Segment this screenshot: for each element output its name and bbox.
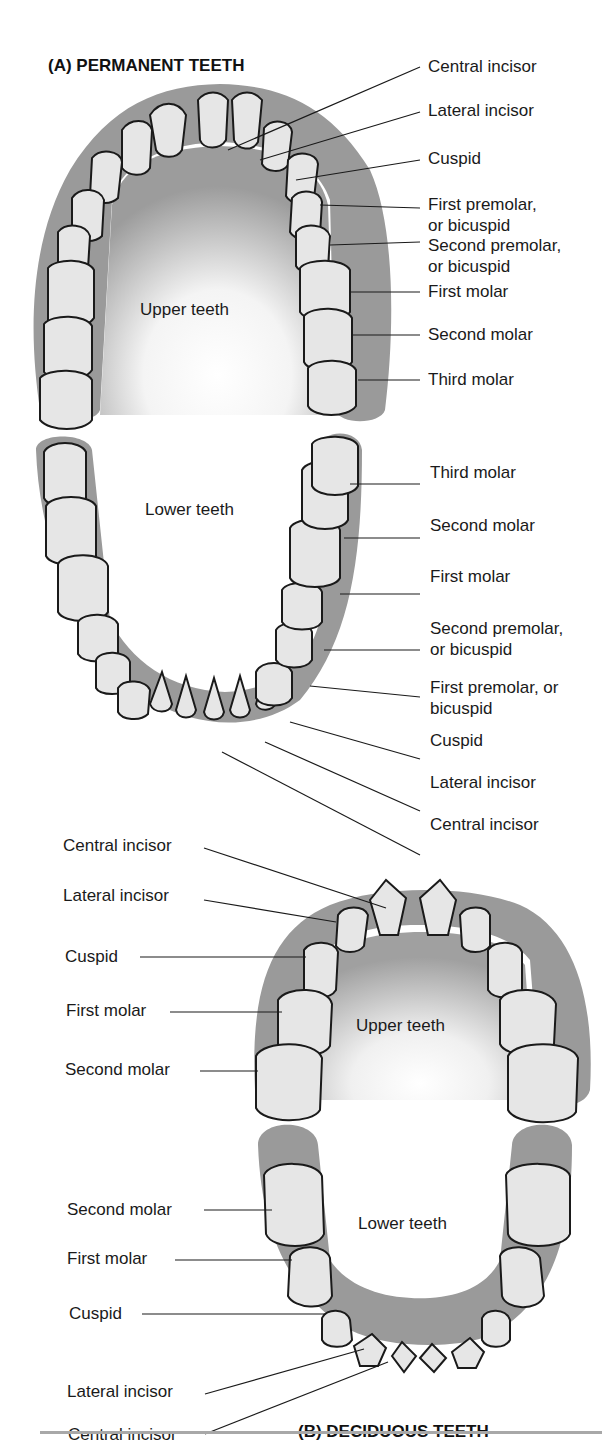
label-perm-lower-first-premolar: First premolar, or bicuspid	[430, 677, 558, 719]
label-line-1: Second premolar,	[430, 618, 563, 639]
label-line-1: Second premolar,	[428, 235, 561, 256]
label-dec-lower-cuspid: Cuspid	[69, 1303, 122, 1324]
label-line-2: bicuspid	[430, 698, 558, 719]
label-perm-upper-lateral-incisor: Lateral incisor	[428, 100, 534, 121]
bottom-divider	[40, 1431, 602, 1434]
label-perm-upper-second-premolar: Second premolar, or bicuspid	[428, 235, 561, 277]
label-perm-lower-central-incisor: Central incisor	[430, 814, 539, 835]
label-dec-lower-second-molar: Second molar	[67, 1199, 172, 1220]
label-dec-lower-lateral-incisor: Lateral incisor	[67, 1381, 173, 1402]
label-dec-upper-second-molar: Second molar	[65, 1059, 170, 1080]
label-perm-lower-cuspid: Cuspid	[430, 730, 483, 751]
label-line-1: First premolar,	[428, 194, 537, 215]
permanent-lower-region-label: Lower teeth	[145, 500, 234, 520]
label-perm-upper-central-incisor: Central incisor	[428, 56, 537, 77]
label-perm-lower-lateral-incisor: Lateral incisor	[430, 772, 536, 793]
label-perm-lower-first-molar: First molar	[430, 566, 510, 587]
label-perm-lower-second-premolar: Second premolar, or bicuspid	[430, 618, 563, 660]
permanent-upper-arch	[34, 84, 392, 429]
label-line-1: First premolar, or	[430, 677, 558, 698]
label-dec-upper-lateral-incisor: Lateral incisor	[63, 885, 169, 906]
label-perm-upper-second-molar: Second molar	[428, 324, 533, 345]
permanent-upper-region-label: Upper teeth	[140, 300, 229, 320]
permanent-teeth-title: (A) PERMANENT TEETH	[48, 56, 244, 76]
label-dec-upper-central-incisor: Central incisor	[63, 835, 172, 856]
label-perm-upper-first-molar: First molar	[428, 281, 508, 302]
label-perm-lower-second-molar: Second molar	[430, 515, 535, 536]
label-perm-upper-cuspid: Cuspid	[428, 148, 481, 169]
label-line-2: or bicuspid	[428, 256, 561, 277]
label-line-2: or bicuspid	[430, 639, 563, 660]
label-perm-upper-first-premolar: First premolar, or bicuspid	[428, 194, 537, 236]
label-line-2: or bicuspid	[428, 215, 537, 236]
deciduous-lower-arch	[258, 1125, 572, 1372]
label-dec-upper-first-molar: First molar	[66, 1000, 146, 1021]
deciduous-lower-region-label: Lower teeth	[358, 1214, 447, 1234]
label-dec-lower-first-molar: First molar	[67, 1248, 147, 1269]
label-dec-upper-cuspid: Cuspid	[65, 946, 118, 967]
permanent-lower-arch	[36, 434, 362, 723]
label-perm-lower-third-molar: Third molar	[430, 462, 516, 483]
deciduous-upper-region-label: Upper teeth	[356, 1016, 445, 1036]
label-perm-upper-third-molar: Third molar	[428, 369, 514, 390]
